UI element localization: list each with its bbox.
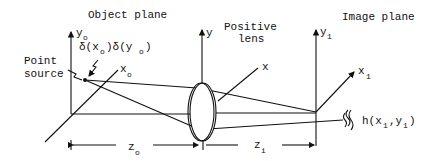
psf-label: h(x 1 ,y 1 ) [362,115,416,130]
positive-lens [188,30,258,141]
axis-xo-label: x o [120,63,132,79]
psf-spread-icon [344,110,354,130]
point-source-icon [68,60,98,82]
delta-function-label: δ(x o )δ(y o ) [79,41,152,56]
axis-x-label: x [262,61,269,73]
svg-text:x: x [120,63,127,75]
axis-y1-label: y 1 [320,26,332,41]
svg-text:,y: ,y [389,115,403,127]
svg-text:z: z [128,141,135,153]
positive-lens-label-1: Positive [224,21,277,33]
svg-text:y: y [76,27,83,39]
axis-x1-label: x 1 [358,65,371,81]
dimension-lines [71,140,314,150]
axis-yo-label: y o [76,27,88,42]
point-source-label-1: Point [24,55,57,67]
object-plane-label: Object plane [88,9,167,21]
svg-text:o: o [135,148,140,157]
svg-text:o: o [100,47,105,56]
distance-zi-label: z i [254,139,266,155]
svg-text:i: i [261,146,266,155]
svg-text:z: z [254,139,261,151]
svg-text:o: o [83,33,88,42]
point-source-label-2: source [24,68,64,80]
svg-text:h(x: h(x [362,115,382,127]
image-plane-axes [316,30,354,146]
svg-text:): ) [409,115,416,127]
axis-y-label: y [206,27,213,39]
positive-lens-label-2: lens [238,33,264,45]
svg-text:δ(x: δ(x [79,41,99,53]
svg-text:1: 1 [366,72,371,81]
image-plane-label: Image plane [342,11,415,23]
svg-text:)δ(y: )δ(y [106,41,133,53]
svg-text:o: o [139,47,144,56]
svg-text:x: x [358,65,365,77]
svg-text:): ) [145,41,152,53]
svg-text:o: o [127,70,132,79]
svg-text:1: 1 [383,121,388,130]
distance-zo-label: z o [128,141,140,157]
imaging-system-diagram: Object plane Image plane Positive lens P… [0,0,440,161]
svg-text:1: 1 [327,32,332,41]
svg-text:y: y [320,26,327,38]
svg-text:1: 1 [403,121,408,130]
